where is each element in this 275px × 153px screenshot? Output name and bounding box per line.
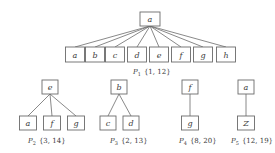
child-node-label: g — [73, 119, 78, 128]
pattern-interval: {3, 14} — [39, 137, 66, 145]
edge-p1-1 — [95, 26, 150, 47]
child-node-label: c — [106, 119, 111, 128]
root-node: f — [182, 80, 198, 94]
child-node-label: g — [187, 119, 192, 128]
edge-p2-0 — [28, 94, 50, 116]
tree-p4: fgP4{8, 20} — [178, 80, 217, 146]
edge-p2-1 — [50, 94, 52, 116]
child-node: c — [106, 47, 125, 62]
pattern-subscript: 2 — [33, 140, 36, 146]
child-node-label: a — [73, 51, 78, 60]
edge-p1-7 — [150, 26, 226, 47]
edge-p2-2 — [50, 94, 76, 116]
root-node: a — [140, 12, 160, 26]
pattern-subscript: 3 — [115, 140, 118, 146]
tree-p3: bcdP3{2, 13} — [100, 80, 148, 146]
edge-p3-0 — [108, 94, 119, 116]
child-node: h — [217, 47, 236, 62]
child-node: g — [68, 116, 85, 130]
pattern-subscript: 4 — [184, 140, 187, 146]
child-node: e — [150, 47, 169, 62]
child-node-label: b — [92, 51, 97, 60]
edge-p3-1 — [119, 94, 131, 116]
child-node-label: c — [113, 51, 118, 60]
child-node-label: Z — [242, 119, 249, 128]
child-node: Z — [238, 116, 255, 130]
edge-p1-2 — [115, 26, 150, 47]
tree-p1: aabcdefghP1{1, 12} — [66, 12, 236, 77]
child-node-label: d — [134, 51, 139, 60]
child-node: f — [172, 47, 191, 62]
tree-caption: P3{2, 13} — [109, 137, 148, 146]
child-node: f — [44, 116, 61, 130]
child-node-label: h — [223, 51, 228, 60]
pattern-subscript: 5 — [236, 140, 239, 146]
child-node: d — [123, 116, 139, 130]
child-node-label: g — [200, 51, 205, 60]
child-node: g — [182, 116, 199, 130]
pattern-subscript: 1 — [138, 71, 141, 77]
pattern-interval: {2, 13} — [121, 137, 148, 145]
child-node-label: d — [128, 119, 133, 128]
child-node: g — [194, 47, 213, 62]
tree-p2: eafgP2{3, 14} — [20, 80, 85, 146]
child-node: a — [20, 116, 37, 130]
pattern-tree-diagram: aabcdefghP1{1, 12}eafgP2{3, 14}bcdP3{2, … — [0, 0, 275, 153]
root-node: e — [42, 80, 58, 94]
pattern-interval: {1, 12} — [144, 68, 171, 76]
pattern-interval: {8, 20} — [190, 137, 217, 145]
tree-caption: P2{3, 14} — [27, 137, 66, 146]
tree-caption: P4{8, 20} — [178, 137, 217, 146]
root-node-label: e — [48, 83, 53, 92]
root-node-label: a — [244, 83, 249, 92]
child-node: d — [128, 47, 147, 62]
child-node-label: e — [157, 51, 162, 60]
root-node-label: b — [116, 83, 121, 92]
child-node: a — [66, 47, 85, 62]
child-node: c — [100, 116, 116, 130]
pattern-interval: {12, 19} — [242, 137, 273, 145]
tree-caption: P1{1, 12} — [132, 68, 171, 77]
child-node: b — [86, 47, 105, 62]
root-node: b — [111, 80, 127, 94]
tree-p5: aZP5{12, 19} — [230, 80, 273, 146]
tree-caption: P5{12, 19} — [230, 137, 273, 146]
root-node-label: a — [148, 15, 153, 24]
child-node-label: a — [26, 119, 31, 128]
root-node: a — [238, 80, 254, 94]
